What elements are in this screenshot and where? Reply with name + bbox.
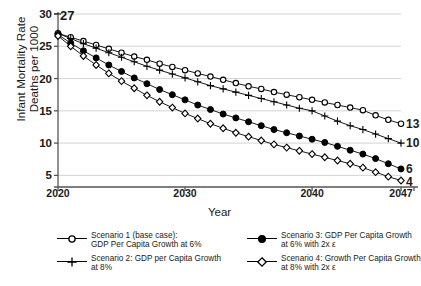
- plus-icon: [55, 255, 89, 269]
- chart-container: Infant Mortality Rate Deaths per 1000 30…: [0, 0, 421, 286]
- x-tick-label-2020: 2020: [46, 187, 69, 199]
- x-tick-label-2040: 2040: [300, 187, 323, 199]
- y-tick-label-15: 15: [26, 106, 52, 116]
- open-diamond-icon: [245, 255, 279, 269]
- y-axis-tick-labels: 30252015105: [22, 0, 52, 200]
- legend-item-scenario-2[interactable]: Scenario 2: GDP per Capita Growth at 8%: [55, 254, 223, 273]
- y-tick-label-30: 30: [26, 9, 52, 19]
- y-tick-label-10: 10: [26, 138, 52, 148]
- y-tick-label-20: 20: [26, 74, 52, 84]
- legend-label-scenario-1: Scenario 1 (base case): GDP Per Capita G…: [89, 231, 201, 250]
- legend-label-scenario-4: Scenario 4: Growth Per Capita Growth at …: [279, 254, 421, 273]
- legend-label-scenario-2: Scenario 2: GDP per Capita Growth at 8%: [89, 254, 221, 273]
- start-value-annotation: 27: [60, 8, 74, 23]
- chart-legend: Scenario 1 (base case): GDP Per Capita G…: [0, 229, 421, 286]
- legend-item-scenario-3[interactable]: Scenario 3: GDP Per Capita Growth at 6% …: [245, 231, 421, 250]
- x-axis-title-text: Year: [208, 206, 231, 218]
- filled-circle-icon: [245, 232, 279, 246]
- end-label-series-4: 4: [406, 175, 413, 189]
- x-axis-title: Year: [0, 206, 421, 218]
- legend-item-scenario-1[interactable]: Scenario 1 (base case): GDP Per Capita G…: [55, 231, 220, 250]
- legend-label-scenario-3: Scenario 3: GDP Per Capita Growth at 6% …: [279, 231, 412, 250]
- x-tick-label-2030: 2030: [173, 187, 196, 199]
- open-circle-icon: [55, 232, 89, 246]
- end-label-series-2: 10: [406, 136, 419, 150]
- legend-item-scenario-4[interactable]: Scenario 4: Growth Per Capita Growth at …: [245, 254, 421, 273]
- y-tick-label-5: 5: [26, 170, 52, 180]
- end-label-series-1: 13: [406, 117, 419, 131]
- end-label-series-3: 6: [406, 162, 413, 176]
- y-tick-label-25: 25: [26, 41, 52, 51]
